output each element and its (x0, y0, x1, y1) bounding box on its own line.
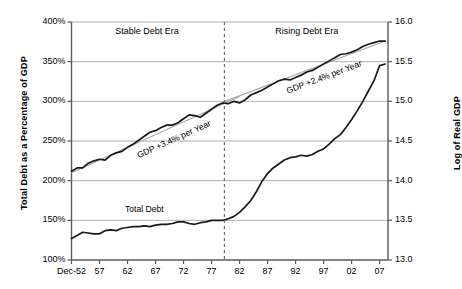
total-debt-label: Total Debt (125, 204, 164, 214)
series-line-log-of-real-gdp (72, 41, 386, 171)
y-axis-right-title: Log of Real GDP (452, 23, 462, 243)
gdp-trend-rising-era (223, 41, 385, 102)
